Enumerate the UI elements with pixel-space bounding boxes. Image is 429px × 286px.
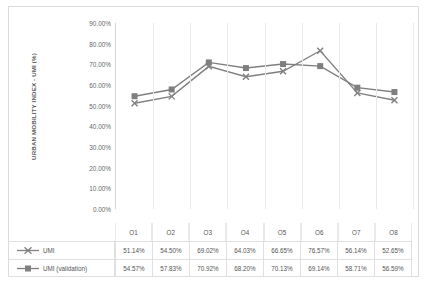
legend-item-umi[interactable]: UMI <box>9 241 115 259</box>
y-axis-title: URBAN MOBILITY INDEX - UMI (%) <box>30 37 37 177</box>
table-cell-value: 70.92% <box>190 259 227 277</box>
y-axis-tick-label: 60.00% <box>89 82 111 89</box>
vertical-gridline <box>265 23 266 209</box>
table-row-categories: O1O2O3O4O5O6O7O8 <box>9 223 418 241</box>
y-axis-tick-label: 0.00% <box>93 206 111 213</box>
data-point-marker <box>132 93 138 99</box>
table-cell-value: 57.83% <box>153 259 190 277</box>
y-axis-tick-label: 70.00% <box>89 61 111 68</box>
table-cell-value: 54.57% <box>115 259 153 277</box>
data-point-marker <box>169 86 175 92</box>
vertical-gridline <box>376 23 377 209</box>
y-axis-tick-label: 50.00% <box>89 102 111 109</box>
data-point-marker <box>391 89 397 95</box>
vertical-gridline <box>302 23 303 209</box>
category-label: O6 <box>301 223 338 241</box>
table-cell-value: 51.14% <box>115 241 153 259</box>
chart-container: URBAN MOBILITY INDEX - UMI (%) 90.00%80.… <box>8 6 419 277</box>
table-cell-value: 76.57% <box>301 241 338 259</box>
vertical-gridline <box>190 23 191 209</box>
category-label: O5 <box>264 223 301 241</box>
vertical-gridline <box>413 23 414 209</box>
category-label: O3 <box>189 223 226 241</box>
legend-cell-empty <box>9 223 115 241</box>
table-row: UMI (validation) 54.57%57.83%70.92%68.20… <box>9 259 418 277</box>
data-point-marker <box>317 48 323 54</box>
data-point-marker <box>280 61 286 67</box>
table-cell-value: 52.65% <box>375 241 412 259</box>
category-cells: O1O2O3O4O5O6O7O8 <box>115 223 412 241</box>
y-axis-tick-label: 30.00% <box>89 144 111 151</box>
legend-marker-cross-icon <box>17 246 39 255</box>
legend-marker-square-icon <box>17 264 39 273</box>
plot-region: URBAN MOBILITY INDEX - UMI (%) 90.00%80.… <box>9 7 418 223</box>
table-cell-value: 54.50% <box>153 241 190 259</box>
y-axis-tick-label: 10.00% <box>89 185 111 192</box>
data-point-marker <box>206 59 212 65</box>
table-cell-value: 58.71% <box>338 259 375 277</box>
data-point-marker <box>243 65 249 71</box>
table-cell-value: 56.14% <box>338 241 375 259</box>
y-axis-tick-label: 90.00% <box>89 20 111 27</box>
table-cell-value: 66.65% <box>264 241 301 259</box>
table-cell-value: 56.59% <box>375 259 412 277</box>
table-row: UMI 51.14%54.50%69.02%64.03%66.65%76.57%… <box>9 241 418 259</box>
category-label: O4 <box>226 223 263 241</box>
table-cell-value: 70.13% <box>264 259 301 277</box>
table-cell-value: 69.14% <box>301 259 338 277</box>
category-label: O1 <box>115 223 152 241</box>
y-axis-tick-label: 20.00% <box>89 164 111 171</box>
legend-label-umi: UMI <box>43 247 55 254</box>
data-point-marker <box>354 85 360 91</box>
legend-item-umi-validation[interactable]: UMI (validation) <box>9 259 115 277</box>
category-label: O8 <box>375 223 412 241</box>
vertical-gridline <box>153 23 154 209</box>
y-axis-tick-label: 80.00% <box>89 40 111 47</box>
vertical-gridline <box>227 23 228 209</box>
table-cell-value: 64.03% <box>227 241 264 259</box>
data-point-marker <box>317 63 323 69</box>
chart-data-table: O1O2O3O4O5O6O7O8 UMI 51.14%54.50%69.02%6… <box>9 223 418 277</box>
y-axis-tick-label: 40.00% <box>89 123 111 130</box>
category-label: O2 <box>152 223 189 241</box>
value-cells-umi: 51.14%54.50%69.02%64.03%66.65%76.57%56.1… <box>115 241 412 259</box>
value-cells-umi-validation: 54.57%57.83%70.92%68.20%70.13%69.14%58.7… <box>115 259 412 277</box>
table-cell-value: 69.02% <box>190 241 227 259</box>
vertical-gridline <box>339 23 340 209</box>
category-label: O7 <box>338 223 375 241</box>
legend-label-umi-validation: UMI (validation) <box>43 265 87 272</box>
y-axis-tick-labels: 90.00%80.00%70.00%60.00%50.00%40.00%30.0… <box>65 23 111 209</box>
table-cell-value: 68.20% <box>227 259 264 277</box>
plot-area <box>115 23 412 209</box>
